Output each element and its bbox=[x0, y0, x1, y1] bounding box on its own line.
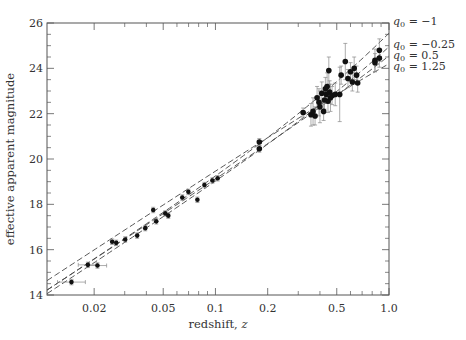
x-tick-label: 0.02 bbox=[82, 302, 107, 315]
model-curve-q0-neg0p25 bbox=[47, 47, 389, 294]
high-z-point bbox=[351, 66, 357, 72]
x-axis-title-var: z bbox=[240, 317, 248, 331]
y-tick-label: 22 bbox=[29, 108, 43, 121]
high-z-point bbox=[326, 68, 332, 74]
low-z-point bbox=[215, 176, 220, 181]
high-z-point bbox=[354, 72, 360, 78]
low-z-point bbox=[154, 219, 159, 224]
x-axis-title-text: redshift, bbox=[189, 317, 242, 331]
low-z-point bbox=[110, 239, 115, 244]
ticks bbox=[47, 23, 389, 295]
x-tick-label: 1.0 bbox=[380, 302, 398, 315]
hubble-diagram-chart: 0.020.050.10.20.51.014161820222426 q0 = … bbox=[0, 0, 466, 340]
legend-value: = 1.25 bbox=[405, 60, 446, 73]
low-z-point bbox=[69, 280, 74, 285]
low-z-point bbox=[166, 213, 171, 218]
error-bars bbox=[58, 39, 382, 285]
x-tick-label: 0.2 bbox=[259, 302, 277, 315]
high-z-point bbox=[345, 76, 351, 82]
legend-q: q bbox=[393, 60, 400, 73]
legend-q: q bbox=[393, 15, 400, 28]
high-z-point bbox=[377, 47, 383, 53]
legend: q0 = −1q0 = −0.25q0 = 0.5q0 = 1.25 bbox=[393, 15, 455, 74]
x-tick-label: 0.1 bbox=[207, 302, 225, 315]
y-tick-label: 24 bbox=[29, 62, 43, 75]
x-axis-title: redshift, z bbox=[189, 317, 249, 331]
axes bbox=[47, 23, 389, 295]
high-z-point bbox=[312, 113, 318, 119]
low-z-point bbox=[180, 195, 185, 200]
legend-label: q0 = −1 bbox=[393, 15, 438, 29]
tick-labels: 0.020.050.10.20.51.014161820222426 bbox=[29, 17, 398, 315]
high-z-point bbox=[337, 92, 343, 98]
low-z-point bbox=[123, 237, 128, 242]
y-tick-label: 14 bbox=[29, 289, 43, 302]
high-z-point bbox=[350, 79, 356, 85]
y-axis-title: effective apparent magnitude bbox=[3, 73, 17, 245]
high-z-point bbox=[377, 55, 383, 61]
model-curves bbox=[47, 33, 389, 294]
high-z-point bbox=[338, 72, 344, 78]
y-tick-label: 26 bbox=[29, 17, 43, 30]
high-z-point bbox=[372, 60, 378, 66]
low-z-point bbox=[202, 183, 207, 188]
low-z-point bbox=[95, 263, 100, 268]
high-z-point bbox=[300, 110, 306, 116]
low-z-point bbox=[143, 226, 148, 231]
y-tick-label: 18 bbox=[29, 198, 43, 211]
low-z-point bbox=[86, 263, 91, 268]
high-z-point bbox=[257, 139, 263, 145]
y-tick-label: 16 bbox=[29, 244, 43, 257]
low-z-point bbox=[210, 178, 215, 183]
high-z-point bbox=[342, 59, 348, 65]
low-z-point bbox=[186, 190, 191, 195]
high-z-point bbox=[324, 84, 330, 90]
high-z-point bbox=[355, 80, 361, 86]
plot-frame bbox=[47, 23, 389, 295]
legend-value: = −1 bbox=[405, 15, 437, 28]
low-z-point bbox=[135, 233, 140, 238]
low-z-point bbox=[114, 241, 119, 246]
x-tick-label: 0.05 bbox=[151, 302, 176, 315]
low-z-point bbox=[151, 208, 156, 213]
low-z-point bbox=[195, 198, 200, 203]
high-z-point bbox=[321, 109, 327, 115]
model-curve-q0-neg1 bbox=[47, 33, 389, 290]
high-z-point bbox=[317, 104, 323, 110]
x-tick-label: 0.5 bbox=[328, 302, 346, 315]
high-z-point bbox=[257, 146, 263, 152]
y-tick-label: 20 bbox=[29, 153, 43, 166]
